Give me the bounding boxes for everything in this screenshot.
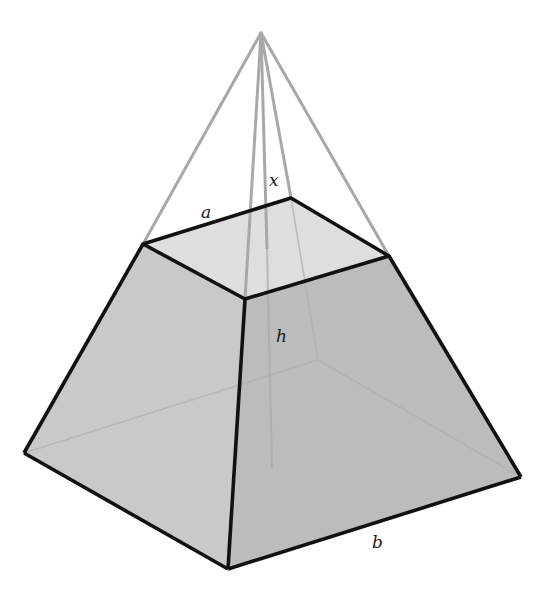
- frustum-diagram: a x h b: [0, 0, 551, 602]
- front-left-face: [24, 244, 245, 569]
- label-base-edge-b: b: [372, 532, 383, 552]
- label-top-edge-a: a: [201, 202, 211, 222]
- label-frustum-height-h: h: [276, 326, 287, 346]
- label-apex-height-x: x: [269, 170, 279, 190]
